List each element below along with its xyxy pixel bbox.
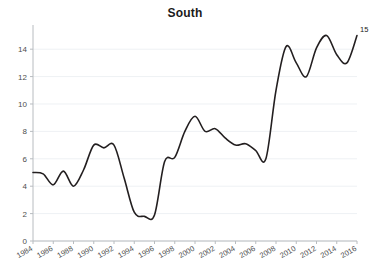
x-axis-tick-label: 2006 (238, 244, 257, 260)
y-axis-tick-label: 6 (23, 155, 28, 164)
x-axis-tick-label: 2004 (218, 244, 237, 260)
x-axis-tick-label: 2000 (177, 244, 196, 260)
line-chart-plot: 0246810121419841986198819901992199419961… (0, 0, 370, 267)
y-axis-tick-label: 10 (18, 100, 27, 109)
x-axis-tick-label: 1994 (116, 244, 135, 260)
y-axis-tick-label: 8 (23, 127, 28, 136)
x-axis-tick-label: 1992 (96, 244, 115, 260)
x-axis-tick-label: 1986 (35, 244, 54, 260)
x-axis-tick-label: 2014 (319, 244, 338, 260)
x-axis-tick-label: 2012 (299, 244, 318, 260)
x-axis-tick-label: 2010 (278, 244, 297, 260)
x-axis-tick-label: 2016 (339, 244, 358, 260)
x-axis-tick-label: 1996 (137, 244, 156, 260)
endpoint-value-label: 15 (360, 25, 368, 34)
y-axis-tick-label: 4 (23, 182, 28, 191)
x-axis-tick-label: 1990 (76, 244, 95, 260)
x-axis-tick-label: 2002 (197, 244, 216, 260)
x-axis-tick-label: 1988 (56, 244, 75, 260)
data-series-line (33, 35, 357, 219)
x-axis-tick-label: 1998 (157, 244, 176, 260)
x-axis-tick-label: 1984 (15, 244, 34, 260)
y-axis-tick-label: 14 (18, 45, 27, 54)
y-axis-tick-label: 2 (23, 210, 28, 219)
chart-container: South 0246810121419841986198819901992199… (0, 0, 370, 267)
y-axis-tick-label: 12 (18, 73, 27, 82)
x-axis-tick-label: 2008 (258, 244, 277, 260)
